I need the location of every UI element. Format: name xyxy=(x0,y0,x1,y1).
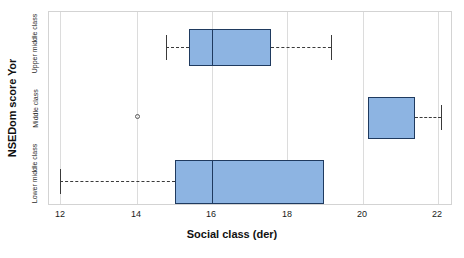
y-tick-middle-class: Middle class xyxy=(22,77,48,139)
y-tick-label: Lower middle class xyxy=(32,143,39,203)
box xyxy=(189,29,271,66)
whisker-left-line xyxy=(166,47,189,48)
whisker-right-cap xyxy=(331,35,332,60)
x-tick-label-12: 12 xyxy=(55,209,65,219)
y-tick-upper-middle-class: Upper middle class xyxy=(22,11,48,75)
gridline-22 xyxy=(438,12,439,204)
median-line xyxy=(212,160,213,204)
x-tick-label-20: 20 xyxy=(357,209,367,219)
gridline-20 xyxy=(363,12,364,204)
outlier-point xyxy=(135,114,140,119)
boxplot-figure: NSEDom score Yor Upper middle class Midd… xyxy=(0,0,464,258)
median-line xyxy=(368,97,369,139)
y-tick-label: Upper middle class xyxy=(32,13,39,73)
y-tick-lower-middle-class: Lower middle class xyxy=(22,141,48,205)
whisker-right-line xyxy=(271,47,331,48)
whisker-right-line xyxy=(415,117,441,118)
box xyxy=(175,160,324,204)
box xyxy=(368,97,415,139)
whisker-left-cap xyxy=(166,35,167,60)
y-axis-title: NSEDom score Yor xyxy=(0,0,24,215)
y-axis-title-text: NSEDom score Yor xyxy=(6,58,18,156)
x-tick-label-18: 18 xyxy=(282,209,292,219)
whisker-right-cap xyxy=(441,105,442,130)
y-tick-label: Middle class xyxy=(32,89,39,128)
x-tick-label-14: 14 xyxy=(131,209,141,219)
plot-area xyxy=(48,11,452,205)
x-axis-title: Social class (der) xyxy=(0,228,464,240)
x-tick-label-16: 16 xyxy=(206,209,216,219)
x-tick-label-22: 22 xyxy=(432,209,442,219)
whisker-left-line xyxy=(60,181,175,182)
median-line xyxy=(212,29,213,66)
gridline-14 xyxy=(137,12,138,204)
